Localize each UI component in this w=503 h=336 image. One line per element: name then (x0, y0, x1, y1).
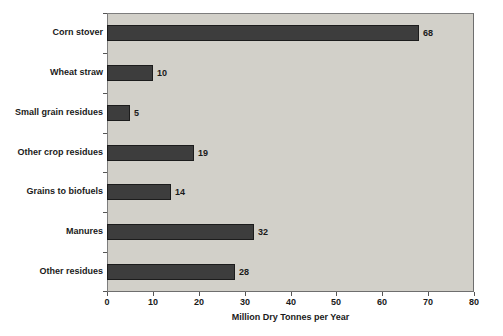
bar (107, 145, 194, 161)
category-label: Wheat straw (0, 67, 103, 78)
x-tick-label: 50 (321, 297, 351, 307)
y-axis-tick (103, 53, 107, 54)
y-axis-tick (103, 13, 107, 14)
bar (107, 25, 419, 41)
bar-value-label: 14 (175, 184, 185, 200)
bar-value-label: 28 (239, 264, 249, 280)
category-label: Small grain residues (0, 107, 103, 118)
x-axis-tick (199, 292, 200, 296)
bar (107, 184, 171, 200)
x-tick-label: 0 (92, 297, 122, 307)
bar-value-label: 68 (423, 25, 433, 41)
category-label: Other residues (0, 266, 103, 277)
bar (107, 105, 130, 121)
bar (107, 224, 254, 240)
x-axis-tick (382, 292, 383, 296)
category-label: Grains to biofuels (0, 186, 103, 197)
x-axis-tick (153, 292, 154, 296)
x-tick-label: 40 (276, 297, 306, 307)
x-tick-label: 80 (459, 297, 489, 307)
x-axis-tick (428, 292, 429, 296)
x-tick-label: 60 (367, 297, 397, 307)
category-label: Manures (0, 226, 103, 237)
bar-value-label: 5 (134, 105, 139, 121)
y-axis-tick (103, 133, 107, 134)
bar (107, 264, 235, 280)
bar-value-label: 32 (258, 224, 268, 240)
x-axis-tick (474, 292, 475, 296)
x-tick-label: 20 (184, 297, 214, 307)
bar-value-label: 10 (157, 65, 167, 81)
x-tick-label: 70 (413, 297, 443, 307)
category-label: Other crop residues (0, 147, 103, 158)
bar (107, 65, 153, 81)
x-axis-tick (291, 292, 292, 296)
bar-chart: 6810519143228 Corn stoverWheat strawSmal… (0, 0, 503, 336)
y-axis-tick (103, 252, 107, 253)
y-axis-tick (103, 172, 107, 173)
x-axis-tick (336, 292, 337, 296)
category-label: Corn stover (0, 27, 103, 38)
bar-value-label: 19 (198, 145, 208, 161)
x-tick-label: 10 (138, 297, 168, 307)
y-axis-tick (103, 93, 107, 94)
x-axis-tick (107, 292, 108, 296)
y-axis-tick (103, 212, 107, 213)
x-axis-tick (245, 292, 246, 296)
x-axis-title: Million Dry Tonnes per Year (107, 312, 474, 322)
x-tick-label: 30 (230, 297, 260, 307)
